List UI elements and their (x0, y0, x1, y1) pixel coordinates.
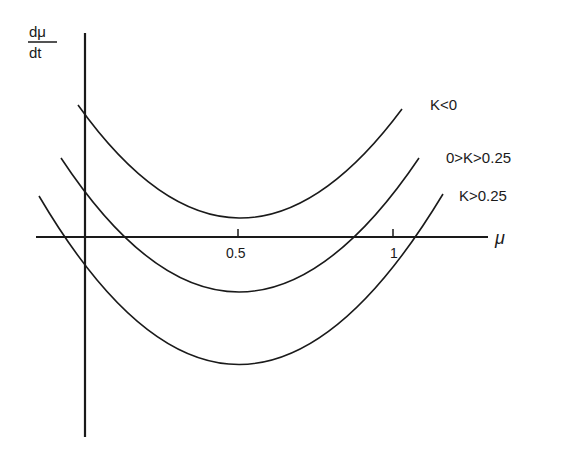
curve-k-large (39, 194, 443, 365)
x-axis-label: μ (494, 228, 505, 248)
curve-k-between (61, 158, 419, 292)
phase-diagram: dμ dt μ 0.5 1 K<0 0>K>0.25 K>0.25 (0, 0, 571, 458)
y-label-denominator: dt (29, 44, 42, 61)
y-label-numerator: dμ (29, 23, 46, 40)
curve-label-k-between: 0>K>0.25 (446, 149, 511, 166)
curve-label-k-negative: K<0 (430, 96, 457, 113)
tick-label-0.5: 0.5 (226, 245, 246, 261)
tick-label-1: 1 (390, 245, 398, 261)
curve-label-k-large: K>0.25 (459, 187, 507, 204)
curve-k-negative (78, 105, 402, 218)
y-axis-label: dμ dt (28, 23, 57, 61)
